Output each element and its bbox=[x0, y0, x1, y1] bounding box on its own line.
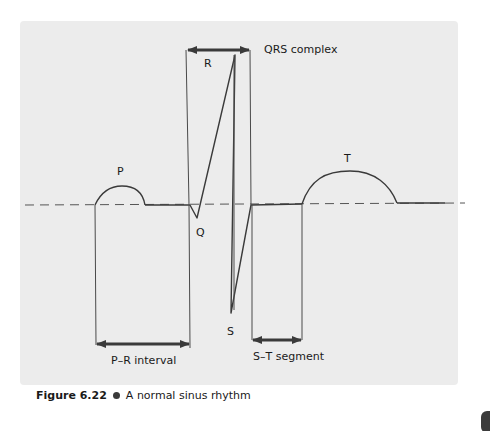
p-wave-label: P bbox=[117, 166, 124, 177]
figure-number: Figure 6.22 bbox=[36, 389, 107, 402]
ecg-waveform-diagram bbox=[0, 0, 490, 431]
q-wave-label: Q bbox=[196, 227, 205, 238]
ecg-trace bbox=[95, 55, 445, 313]
page-edge-tab bbox=[481, 411, 490, 431]
figure-caption-text: A normal sinus rhythm bbox=[126, 389, 251, 402]
bullet-icon bbox=[113, 392, 120, 399]
r-wave-label: R bbox=[204, 58, 212, 69]
t-wave-label: T bbox=[344, 153, 351, 164]
guide-lines bbox=[95, 50, 302, 348]
figure-caption: Figure 6.22 A normal sinus rhythm bbox=[36, 389, 251, 402]
qrs-complex-label: QRS complex bbox=[264, 44, 337, 55]
page: P Q R S T QRS complex P–R interval S–T s… bbox=[0, 0, 490, 431]
pr-interval-label: P–R interval bbox=[111, 355, 176, 366]
st-segment-label: S–T segment bbox=[253, 351, 324, 362]
s-wave-label: S bbox=[227, 326, 234, 337]
